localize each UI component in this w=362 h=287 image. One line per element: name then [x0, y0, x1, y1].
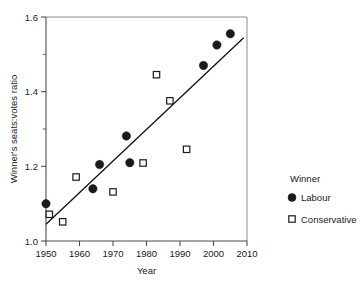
x-tick-label-1960: 1960	[69, 248, 90, 259]
x-tick-label-2010: 2010	[236, 248, 257, 259]
point-labour-1950	[42, 200, 50, 208]
scatter-plot-svg: 1.0 1.2 1.4 1.6 1950 1960 1970 1980 1990…	[0, 0, 362, 287]
legend: Winner Labour Conservative	[288, 173, 356, 225]
point-labour-2005	[226, 30, 234, 38]
y-axis-tick-labels: 1.0 1.2 1.4 1.6	[25, 12, 38, 247]
x-tick-label-1950: 1950	[35, 248, 56, 259]
y-tick-label-1-0: 1.0	[25, 236, 38, 247]
point-labour-1997	[199, 61, 207, 69]
legend-entry-conservative[interactable]: Conservative	[289, 214, 357, 225]
x-axis-tick-labels: 1950 1960 1970 1980 1990 2000 2010	[35, 248, 257, 259]
y-tick-label-1-2: 1.2	[25, 161, 38, 172]
x-tick-label-1980: 1980	[136, 248, 157, 259]
series-labour-points	[42, 30, 235, 208]
x-tick-label-1970: 1970	[102, 248, 123, 259]
point-labour-1966	[95, 160, 103, 168]
point-labour-2001	[213, 41, 221, 49]
point-conservative-1955	[60, 219, 66, 225]
point-labour-1975	[126, 159, 134, 167]
point-conservative-1979	[140, 160, 146, 166]
y-tick-label-1-4: 1.4	[25, 86, 38, 97]
point-conservative-1959	[73, 174, 79, 180]
point-conservative-1992	[183, 146, 189, 152]
legend-label-conservative: Conservative	[301, 214, 356, 225]
point-conservative-1987	[167, 98, 173, 104]
x-tick-label-2000: 2000	[203, 248, 224, 259]
point-labour-1974	[122, 132, 130, 140]
point-conservative-1983	[153, 72, 159, 78]
legend-label-labour: Labour	[301, 192, 331, 203]
y-tick-label-1-6: 1.6	[25, 12, 38, 23]
legend-entry-labour[interactable]: Labour	[288, 192, 331, 203]
x-axis-title: Year	[137, 265, 156, 276]
point-conservative-1951	[46, 211, 52, 217]
x-axis-ticks	[46, 241, 247, 246]
series-conservative-points	[46, 72, 190, 226]
legend-title: Winner	[290, 173, 320, 184]
legend-marker-filled-circle-icon	[288, 194, 296, 202]
y-axis-title: Winner's seats:votes ratio	[8, 75, 19, 183]
trendline	[46, 38, 244, 225]
chart-figure: 1.0 1.2 1.4 1.6 1950 1960 1970 1980 1990…	[0, 0, 362, 287]
point-conservative-1970	[110, 189, 116, 195]
x-tick-label-1990: 1990	[169, 248, 190, 259]
legend-marker-open-square-icon	[289, 216, 295, 222]
point-labour-1964	[89, 185, 97, 193]
